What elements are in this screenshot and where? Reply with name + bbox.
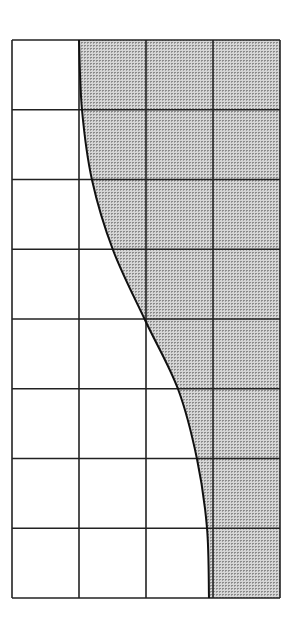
shaded-grid-diagram: [0, 0, 296, 628]
